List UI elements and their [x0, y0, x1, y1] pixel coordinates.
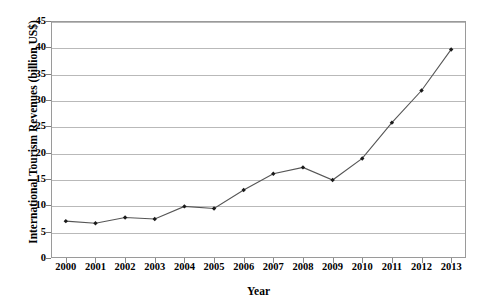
y-axis-tick-mark: [45, 258, 51, 259]
gridline: [52, 101, 465, 102]
gridline: [52, 75, 465, 76]
gridline: [52, 154, 465, 155]
gridline: [52, 48, 465, 49]
y-axis-tick-label: 25: [20, 121, 46, 132]
y-axis-tick-label: 40: [20, 42, 46, 53]
gridline: [52, 206, 465, 207]
tourism-revenue-line-chart: International Tourism Revenues (billion …: [0, 0, 489, 307]
y-axis-tick-label: 35: [20, 69, 46, 80]
y-axis-tick-label: 10: [20, 200, 46, 211]
y-axis-tick-label: 30: [20, 95, 46, 106]
gridline: [52, 127, 465, 128]
y-axis-tick-label: 5: [20, 227, 46, 238]
gridline: [52, 180, 465, 181]
y-axis-tick-label: 45: [20, 16, 46, 27]
gridline: [52, 22, 465, 23]
plot-area: [51, 21, 466, 258]
y-axis-tick-label: 20: [20, 148, 46, 159]
x-axis-title: Year: [51, 285, 466, 297]
y-axis-tick-label: 15: [20, 174, 46, 185]
gridline: [52, 233, 465, 234]
x-axis-tick-label: 2013: [428, 262, 474, 273]
